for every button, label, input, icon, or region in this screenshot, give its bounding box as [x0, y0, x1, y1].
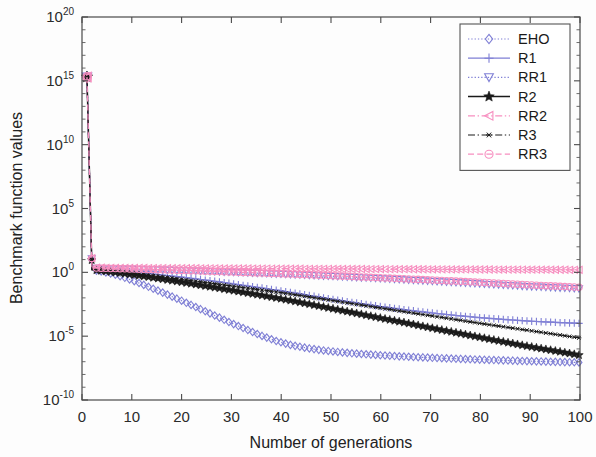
x-tick-label: 60 — [372, 408, 389, 425]
x-tick-label: 50 — [323, 408, 340, 425]
legend-label: RR3 — [518, 146, 547, 162]
x-tick-label: 70 — [422, 408, 439, 425]
x-tick-label: 0 — [78, 408, 86, 425]
x-tick-label: 90 — [522, 408, 539, 425]
legend-label: RR1 — [518, 69, 547, 85]
legend-label: R3 — [518, 127, 537, 143]
x-tick-label: 40 — [273, 408, 290, 425]
x-tick-label: 10 — [123, 408, 140, 425]
legend-label: R2 — [518, 89, 537, 105]
x-axis-label: Number of generations — [250, 434, 413, 451]
benchmark-convergence-chart: 0102030405060708090100 10201015101010510… — [0, 0, 596, 457]
x-tick-label: 100 — [567, 408, 592, 425]
chart-legend[interactable]: EHOR1RR1R2RR2R3RR3 — [460, 24, 570, 170]
legend-label: R1 — [518, 50, 537, 66]
x-tick-label: 80 — [472, 408, 489, 425]
legend-label: RR2 — [518, 108, 547, 124]
x-tick-label: 20 — [173, 408, 190, 425]
y-axis-label: Benchmark function values — [8, 112, 25, 304]
legend-label: EHO — [518, 31, 549, 47]
x-tick-label: 30 — [223, 408, 240, 425]
